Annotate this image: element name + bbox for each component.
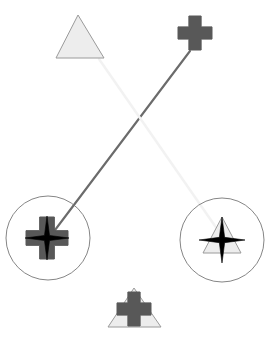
canvas-background — [0, 0, 269, 337]
scene-canvas: light triangledark crossdark cross with … — [0, 0, 269, 337]
shape-scene-svg: light triangledark crossdark cross with … — [0, 0, 269, 337]
